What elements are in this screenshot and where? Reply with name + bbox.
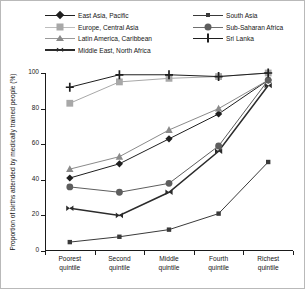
legend-column-right: South Asia Sub-Saharan Africa Sri Lanka	[193, 10, 303, 45]
data-point-triangle-marker	[215, 105, 222, 112]
data-point-diamond-marker	[165, 135, 172, 142]
data-point-bowtie-marker	[66, 205, 73, 211]
data-point-circle-marker	[265, 77, 272, 84]
series-line	[66, 83, 272, 219]
y-tick-label: 40	[32, 175, 39, 182]
data-point-circle-marker	[166, 180, 173, 187]
x-axis-label: Richestquintile	[238, 255, 298, 272]
y-tick-label: 0	[35, 246, 39, 253]
data-point-square-marker	[116, 79, 123, 86]
legend-item-south-asia: South Asia	[193, 10, 303, 22]
series-polyline	[70, 85, 268, 215]
data-point-plus-marker	[115, 70, 123, 79]
data-point-circle-marker	[116, 189, 123, 196]
y-tick-label: 80	[32, 104, 39, 111]
legend-label-middle-east-north-africa: Middle East, North Africa	[78, 46, 151, 55]
legend-item-east-asia-pacific: East Asia, Pacific	[45, 10, 190, 22]
legend-item-sub-saharan-africa: Sub-Saharan Africa	[193, 22, 303, 34]
legend-item-europe-central-asia: Europe, Central Asia	[45, 22, 190, 34]
data-point-small-square-marker	[117, 235, 121, 239]
y-tick-label: 100	[28, 68, 39, 75]
legend-label-east-asia-pacific: East Asia, Pacific	[78, 11, 129, 20]
data-point-diamond-marker	[116, 160, 123, 167]
data-point-diamond-marker	[66, 174, 73, 181]
data-point-triangle-marker	[165, 126, 172, 133]
legend-item-latin-america-caribbean: Latin America, Caribbean	[45, 33, 190, 45]
data-point-small-square-marker	[68, 240, 72, 244]
legend-column-left: East Asia, Pacific Europe, Central Asia …	[45, 10, 190, 56]
legend-item-middle-east-north-africa: Middle East, North Africa	[45, 45, 190, 57]
legend-marker-bowtie-icon	[45, 45, 75, 56]
data-point-small-square-marker	[266, 160, 270, 164]
legend-label-sub-saharan-africa: Sub-Saharan Africa	[226, 23, 283, 32]
chart-legend: East Asia, Pacific Europe, Central Asia …	[45, 10, 300, 58]
legend-marker-plus-icon	[193, 33, 223, 44]
series-line	[66, 76, 272, 172]
legend-label-europe-central-asia: Europe, Central Asia	[78, 23, 138, 32]
plot-area: 020406080100 PoorestquintileSecondquinti…	[45, 73, 293, 251]
legend-label-south-asia: South Asia	[226, 11, 258, 20]
y-axis-title: Proportion of births attended by medical…	[7, 73, 19, 251]
legend-marker-circle-icon	[193, 22, 223, 33]
legend-label-sri-lanka: Sri Lanka	[226, 34, 254, 43]
legend-item-sri-lanka: Sri Lanka	[193, 33, 303, 45]
data-point-triangle-marker	[116, 153, 123, 160]
data-point-circle-marker	[66, 184, 73, 191]
legend-marker-small-square-icon	[193, 10, 223, 21]
series-line	[68, 160, 271, 244]
data-point-square-marker	[66, 100, 73, 107]
legend-marker-diamond-icon	[45, 10, 75, 21]
data-point-plus-marker	[66, 83, 74, 92]
legend-marker-triangle-icon	[45, 33, 75, 44]
data-point-small-square-marker	[216, 211, 220, 215]
y-tick-label: 60	[32, 139, 39, 146]
data-point-circle-marker	[215, 143, 222, 150]
chart-figure: East Asia, Pacific Europe, Central Asia …	[0, 0, 305, 289]
data-point-small-square-marker	[167, 227, 171, 231]
legend-label-latin-america-caribbean: Latin America, Caribbean	[78, 34, 152, 43]
y-tick-label: 20	[32, 210, 39, 217]
legend-marker-square-icon	[45, 22, 75, 33]
series-layer	[45, 73, 293, 251]
